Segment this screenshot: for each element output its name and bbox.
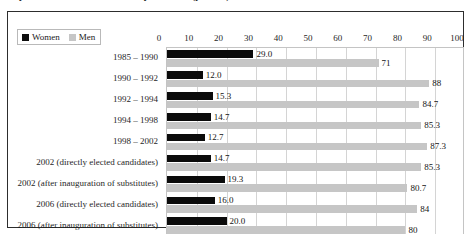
bar-value-women: 20.0 [230,217,246,226]
y-category-label: 1990 – 1992 [113,73,158,83]
bar-men[interactable] [167,101,419,109]
y-category-label: 1985 – 1990 [113,52,158,62]
bar-value-men: 71 [382,59,391,68]
bar-value-women: 14.7 [214,154,230,163]
bar-men[interactable] [167,59,379,67]
bar-men[interactable] [167,122,421,130]
bar-women[interactable] [167,176,225,184]
bar-value-women: 15.3 [216,92,232,101]
bar-value-men: 87.3 [430,142,446,151]
bar-men[interactable] [167,143,427,151]
chart-row: 20.080 [167,215,463,234]
bar-men[interactable] [167,226,405,234]
bar-value-women: 29.0 [256,50,272,59]
x-tick-label-70: 70 [363,32,372,44]
figure-caption: Proportion of women and men in parliamen… [4,0,230,1]
x-tick-label-30: 30 [244,32,253,44]
bar-value-men: 84.7 [422,100,438,109]
x-tick-label-60: 60 [333,32,342,44]
y-category-label: 2006 (directly elected candidates) [36,199,158,209]
y-category-label: 2006 (after inauguration of substitutes) [18,220,158,230]
bar-men[interactable] [167,80,429,88]
x-tick-label-20: 20 [214,32,223,44]
bar-value-men: 80 [408,226,417,234]
chart-row: 12.787.3 [167,132,463,153]
bar-women[interactable] [167,134,205,142]
y-category-label: 2002 (after inauguration of substitutes) [18,178,158,188]
bar-women[interactable] [167,155,211,163]
chart-row: 15.384.7 [167,90,463,111]
bar-women[interactable] [167,50,253,58]
x-tick-label-80: 80 [393,32,402,44]
x-tick-label-100: 100 [450,32,464,44]
bar-value-women: 12.0 [206,71,222,80]
y-category-label: 1994 – 1998 [113,115,158,125]
x-tick-label-90: 90 [423,32,432,44]
bar-value-women: 12.7 [208,133,224,142]
x-axis-tick-labels: 0102030405060708090100 [8,32,472,46]
bar-value-men: 80.7 [410,184,426,193]
figure-caption-strip: Proportion of women and men in parliamen… [0,0,472,9]
bar-value-women: 19.3 [228,175,244,184]
chart-row: 12.088 [167,69,463,90]
bar-men[interactable] [167,184,407,192]
y-category-label: 2002 (directly elected candidates) [36,157,158,167]
plot-area: 29.07112.08815.384.714.785.312.787.314.7… [166,47,464,234]
bar-women[interactable] [167,197,215,205]
bar-women[interactable] [167,217,227,225]
bar-women[interactable] [167,92,213,100]
chart-row: 16.084 [167,194,463,215]
bar-value-men: 85.3 [424,163,440,172]
chart-row: 29.071 [167,48,463,69]
x-tick-label-40: 40 [274,32,283,44]
bar-value-women: 14.7 [214,113,230,122]
bar-men[interactable] [167,205,417,213]
bar-women[interactable] [167,113,211,121]
bar-value-men: 85.3 [424,121,440,130]
bar-women[interactable] [167,71,203,79]
chart-row: 14.785.3 [167,111,463,132]
bar-men[interactable] [167,163,421,171]
x-tick-label-10: 10 [184,32,193,44]
bar-value-men: 84 [420,205,429,214]
chart-frame: WomenMen 0102030405060708090100 1985 – 1… [7,11,464,228]
y-category-label: 1998 – 2002 [113,136,158,146]
chart-row: 19.380.7 [167,173,463,194]
x-tick-label-50: 50 [304,32,313,44]
bar-value-women: 16.0 [218,196,234,205]
y-category-label: 1992 – 1994 [113,94,158,104]
x-tick-label-0: 0 [157,32,162,44]
chart-row: 14.785.3 [167,152,463,173]
bar-value-men: 88 [432,79,441,88]
y-axis-category-labels: 1985 – 19901990 – 19921992 – 19941994 – … [8,47,162,234]
